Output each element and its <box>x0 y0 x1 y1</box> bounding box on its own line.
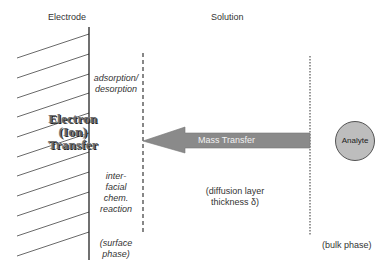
reaction-line-2: facial <box>92 182 140 193</box>
diffusion-layer-line-2: thickness δ) <box>200 197 270 208</box>
reaction-line-4: reaction <box>92 204 140 215</box>
electrode-process-diagram: Electrode Solution Electron (Ion) Transf… <box>0 0 389 273</box>
adsorption-line-1: adsorption/ <box>92 73 140 84</box>
solution-header: Solution <box>211 12 244 23</box>
electron-transfer-label: Electron (Ion) Transfer <box>18 112 128 151</box>
surface-phase-label: (surface phase) <box>92 238 140 260</box>
diffusion-layer-label: (diffusion layer thickness δ) <box>200 186 270 208</box>
diffusion-layer-line-1: (diffusion layer <box>200 186 270 197</box>
mass-transfer-label: Mass Transfer <box>198 135 255 146</box>
interfacial-reaction-label: inter- facial chem. reaction <box>92 171 140 215</box>
reaction-line-3: chem. <box>92 193 140 204</box>
electron-transfer-line-3: Transfer <box>18 138 128 151</box>
reaction-line-1: inter- <box>92 171 140 182</box>
adsorption-label: adsorption/ desorption <box>92 73 140 95</box>
surface-phase-line-1: (surface <box>92 238 140 249</box>
electrode-header: Electrode <box>48 12 86 23</box>
adsorption-line-2: desorption <box>92 84 140 95</box>
surface-phase-line-2: phase) <box>92 249 140 260</box>
bulk-phase-label: (bulk phase) <box>322 240 372 251</box>
analyte-label: Analyte <box>336 136 374 146</box>
